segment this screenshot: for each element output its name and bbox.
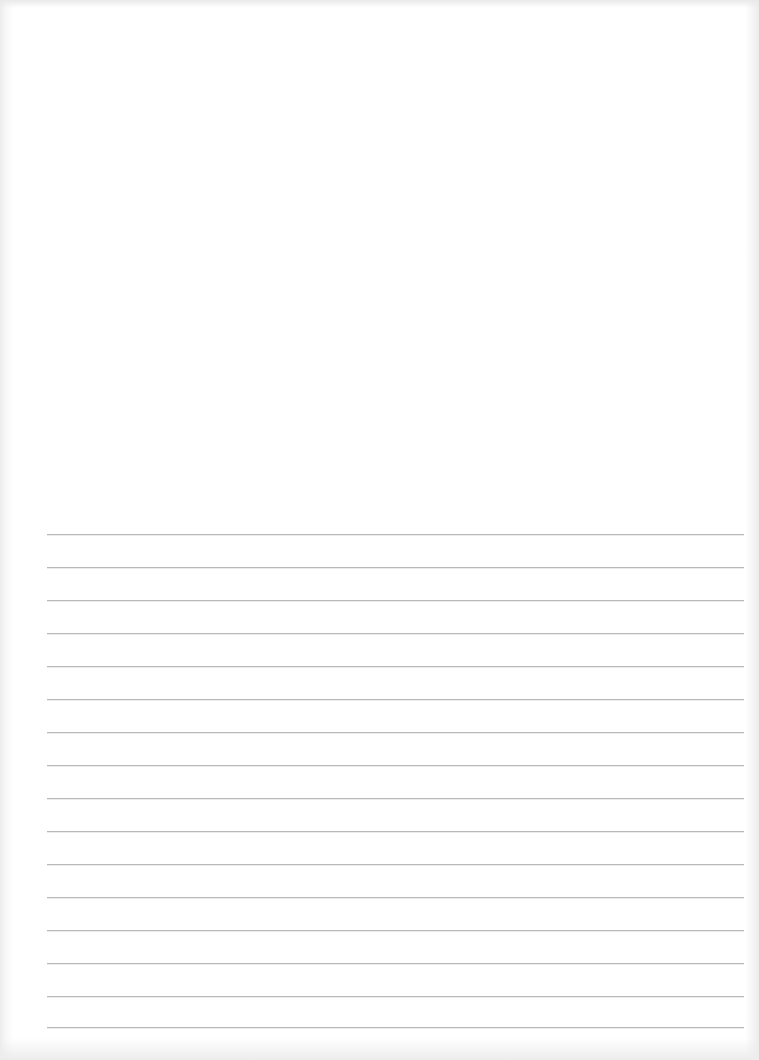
ruled-line [47,732,744,733]
ruled-line [47,864,744,865]
ruled-line [47,930,744,931]
ruled-line [47,600,744,601]
ruled-line [47,831,744,832]
ruled-line [47,1027,744,1028]
ruled-line [47,765,744,766]
ruled-line [47,699,744,700]
ruled-lines [47,0,744,1060]
ruled-line [47,897,744,898]
ruled-line [47,996,744,997]
ruled-line [47,567,744,568]
ruled-line [47,633,744,634]
ruled-line [47,666,744,667]
ruled-line [47,534,744,535]
ruled-line [47,798,744,799]
lined-paper-sheet [0,0,759,1060]
ruled-line [47,963,744,964]
